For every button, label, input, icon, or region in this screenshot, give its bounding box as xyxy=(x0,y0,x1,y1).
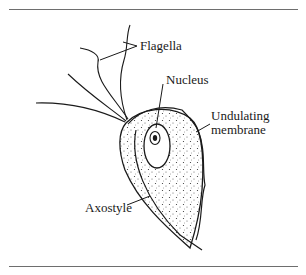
label-flagella: Flagella xyxy=(140,39,182,53)
label-nucleus: Nucleus xyxy=(166,73,209,87)
flagella-strands xyxy=(36,25,130,122)
label-undulating-membrane: Undulating membrane xyxy=(211,109,270,137)
bottom-rule xyxy=(9,266,298,267)
label-axostyle: Axostyle xyxy=(85,201,132,215)
label-undulating-line2: membrane xyxy=(211,123,270,137)
nucleus-shape xyxy=(144,124,170,168)
label-undulating-line1: Undulating xyxy=(211,109,270,123)
